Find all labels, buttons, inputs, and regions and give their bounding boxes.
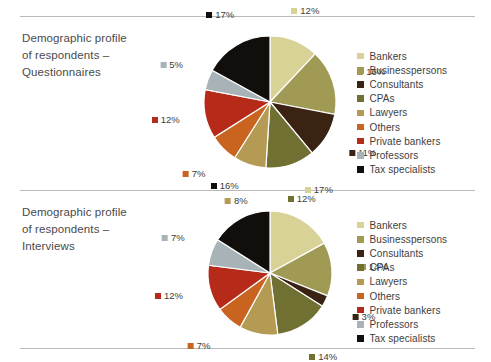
pie-slice-label: 12%	[152, 115, 180, 125]
legend-swatch-icon	[357, 293, 364, 300]
pie-slice-value: 7%	[192, 169, 206, 179]
legend-label: CPAs	[370, 93, 395, 104]
legend-interviews: BankersBusinesspersonsConsultantsCPAsLaw…	[357, 218, 447, 346]
chart-panel-interviews: Demographic profile of respondents – Int…	[0, 190, 491, 348]
legend-label: Businesspersons	[370, 234, 448, 245]
pie-svg-questionnaires	[182, 22, 357, 182]
legend-label: Businesspersons	[370, 65, 448, 76]
pie-slice-label: 16%	[211, 181, 239, 191]
legend-item: Private bankers	[357, 303, 447, 317]
legend-label: Private bankers	[370, 136, 441, 147]
legend-swatch-icon	[357, 95, 364, 102]
pie-slice-label: 7%	[162, 233, 185, 243]
legend-item: Bankers	[357, 49, 447, 63]
legend-label: Consultants	[370, 248, 424, 259]
legend-swatch-icon	[357, 166, 364, 173]
legend-item: Lawyers	[357, 275, 447, 289]
legend-item: CPAs	[357, 261, 447, 275]
legend-item: Bankers	[357, 218, 447, 232]
legend-item: Lawyers	[357, 106, 447, 120]
pie-slice-value: 14%	[318, 352, 337, 362]
legend-item: Tax specialists	[357, 332, 447, 346]
pie-slice-swatch-icon	[183, 171, 189, 177]
legend-swatch-icon	[357, 138, 364, 145]
legend-swatch-icon	[357, 53, 364, 60]
legend-swatch-icon	[357, 222, 364, 229]
legend-item: CPAs	[357, 92, 447, 106]
legend-swatch-icon	[357, 124, 364, 131]
legend-item: Others	[357, 289, 447, 303]
legend-item: Consultants	[357, 246, 447, 260]
legend-label: Private bankers	[370, 305, 441, 316]
legend-label: Tax specialists	[370, 333, 436, 344]
legend-swatch-icon	[357, 81, 364, 88]
legend-swatch-icon	[357, 152, 364, 159]
pie-slice-value: 7%	[197, 341, 211, 351]
pie-chart-interviews: 17%14%3%14%10%7%12%7%16%	[182, 198, 357, 348]
legend-swatch-icon	[357, 321, 364, 328]
legend-label: Bankers	[370, 220, 407, 231]
pie-slice-swatch-icon	[349, 150, 355, 156]
chart-panel-questionnaires: Demographic profile of respondents – Que…	[0, 16, 491, 190]
legend-item: Businesspersons	[357, 63, 447, 77]
legend-swatch-icon	[357, 264, 364, 271]
pie-slice-label: 17%	[305, 185, 333, 195]
legend-swatch-icon	[357, 335, 364, 342]
legend-swatch-icon	[357, 67, 364, 74]
legend-label: Tax specialists	[370, 164, 436, 175]
divider-bottom	[20, 348, 475, 349]
pie-slice-swatch-icon	[188, 343, 194, 349]
pie-slice-value: 7%	[171, 233, 185, 243]
pie-slice-label: 7%	[188, 341, 211, 351]
legend-item: Professors	[357, 317, 447, 331]
pie-slice-value: 16%	[220, 181, 239, 191]
figure-page: Demographic profile of respondents – Que…	[0, 0, 491, 362]
pie-slice-label: 12%	[291, 6, 319, 16]
legend-item: Consultants	[357, 77, 447, 91]
pie-svg-interviews	[182, 198, 357, 348]
pie-slice-swatch-icon	[155, 293, 161, 299]
legend-swatch-icon	[357, 236, 364, 243]
pie-slice-value: 17%	[314, 185, 333, 195]
pie-slice-label: 12%	[155, 291, 183, 301]
pie-slice-swatch-icon	[206, 12, 212, 18]
legend-label: Others	[370, 122, 401, 133]
pie-slice-value: 12%	[300, 6, 319, 16]
pie-slice-value: 5%	[169, 60, 183, 70]
pie-slice-label: 14%	[309, 352, 337, 362]
pie-slice-value: 17%	[215, 10, 234, 20]
legend-label: Professors	[370, 319, 419, 330]
legend-item: Businesspersons	[357, 232, 447, 246]
legend-questionnaires: BankersBusinesspersonsConsultantsCPAsLaw…	[357, 49, 447, 177]
pie-chart-questionnaires: 12%16%11%12%8%7%12%5%17%	[182, 22, 357, 182]
pie-slice-label: 5%	[160, 60, 183, 70]
legend-label: Consultants	[370, 79, 424, 90]
legend-label: Lawyers	[370, 276, 408, 287]
legend-swatch-icon	[357, 307, 364, 314]
chart-title-interviews: Demographic profile of respondents – Int…	[22, 204, 172, 255]
pie-slice-swatch-icon	[305, 187, 311, 193]
legend-swatch-icon	[357, 279, 364, 286]
pie-slice-value: 12%	[164, 291, 183, 301]
pie-slice-label: 7%	[183, 169, 206, 179]
pie-slice-swatch-icon	[211, 183, 217, 189]
pie-slice-swatch-icon	[152, 117, 158, 123]
legend-label: CPAs	[370, 262, 395, 273]
legend-swatch-icon	[357, 250, 364, 257]
chart-title-questionnaires: Demographic profile of respondents – Que…	[22, 30, 172, 81]
legend-swatch-icon	[357, 110, 364, 117]
pie-slice-swatch-icon	[291, 8, 297, 14]
legend-item: Professors	[357, 148, 447, 162]
legend-item: Private bankers	[357, 134, 447, 148]
pie-slice-value: 12%	[161, 115, 180, 125]
legend-label: Bankers	[370, 51, 407, 62]
legend-label: Lawyers	[370, 107, 408, 118]
legend-label: Others	[370, 291, 401, 302]
legend-item: Tax specialists	[357, 163, 447, 177]
pie-slice-swatch-icon	[309, 354, 315, 360]
legend-item: Others	[357, 120, 447, 134]
pie-slice-swatch-icon	[162, 235, 168, 241]
pie-slice-label: 17%	[206, 10, 234, 20]
pie-slice-swatch-icon	[160, 62, 166, 68]
legend-label: Professors	[370, 150, 419, 161]
